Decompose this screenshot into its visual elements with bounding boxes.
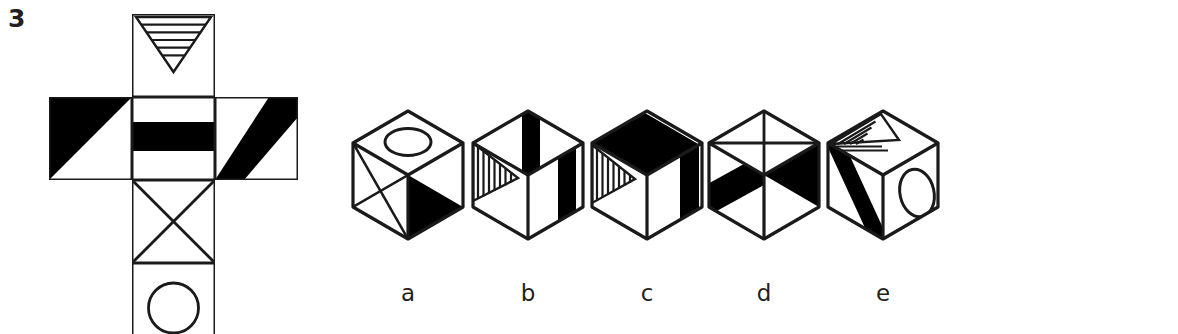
option-b-cube[interactable] xyxy=(473,108,583,239)
option-label-d[interactable]: d xyxy=(744,282,784,305)
option-c-cube[interactable] xyxy=(589,111,705,239)
option-label-a[interactable]: a xyxy=(388,282,428,305)
net-face-diagonal-band xyxy=(215,97,298,180)
question-number: 3 xyxy=(8,6,25,31)
option-label-e[interactable]: e xyxy=(863,282,903,305)
option-d-cube[interactable] xyxy=(706,111,819,239)
net-face-x-cross xyxy=(132,180,215,263)
net-face-black-corner-triangle xyxy=(49,97,132,180)
option-label-c[interactable]: c xyxy=(627,282,667,305)
horizontal-black-band-icon xyxy=(132,122,215,151)
option-e-cube[interactable] xyxy=(825,111,939,241)
net-face-striped-triangle xyxy=(132,14,215,97)
puzzle-root: 3 xyxy=(0,0,1178,334)
net-face-horizontal-band xyxy=(132,97,215,180)
net-face-circle xyxy=(132,263,215,334)
cube-net-svg xyxy=(40,0,320,334)
cube-net-figure xyxy=(40,0,320,334)
answer-options: a b c d e xyxy=(340,0,1178,334)
option-a-cube[interactable] xyxy=(353,111,463,239)
option-label-b[interactable]: b xyxy=(508,282,548,305)
answer-options-svg xyxy=(340,0,1178,300)
